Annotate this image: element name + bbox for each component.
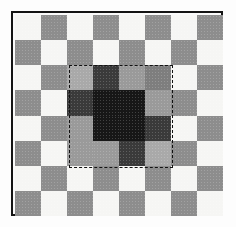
board-cell	[171, 166, 197, 191]
board-cell	[67, 90, 93, 115]
board-cell	[171, 141, 197, 166]
board-cell	[41, 116, 67, 141]
board-cell	[145, 65, 171, 90]
board-cell	[67, 40, 93, 65]
board-cell	[15, 90, 41, 115]
board-cell	[119, 40, 145, 65]
board-cell	[15, 40, 41, 65]
board-cell	[145, 116, 171, 141]
board-cell	[15, 65, 41, 90]
board-cell	[119, 15, 145, 40]
board-cell	[93, 166, 119, 191]
board-cell	[145, 141, 171, 166]
board-cell	[93, 141, 119, 166]
board-cell	[93, 116, 119, 141]
board-cell	[41, 40, 67, 65]
board-cell	[93, 191, 119, 216]
board-cell	[119, 116, 145, 141]
board-cell	[119, 166, 145, 191]
board-cell	[119, 65, 145, 90]
board-cell	[197, 141, 223, 166]
board-cell	[41, 141, 67, 166]
board-cell	[171, 40, 197, 65]
board-cell	[145, 90, 171, 115]
board-cell	[171, 15, 197, 40]
board-cell	[41, 191, 67, 216]
board-cell	[93, 65, 119, 90]
board-cell	[197, 15, 223, 40]
board-cell	[119, 90, 145, 115]
board-cell	[15, 15, 41, 40]
board-cell	[67, 116, 93, 141]
board-cell	[67, 141, 93, 166]
board-cell	[171, 65, 197, 90]
board-cell	[197, 90, 223, 115]
board-cell	[171, 90, 197, 115]
board-cell	[119, 191, 145, 216]
board-cell	[15, 191, 41, 216]
board-cell	[15, 116, 41, 141]
board-cell	[93, 40, 119, 65]
checkerboard-figure	[0, 0, 236, 227]
board-cell	[41, 90, 67, 115]
board-cell	[145, 40, 171, 65]
board-cell	[67, 191, 93, 216]
board-cell	[41, 166, 67, 191]
board-cell	[197, 40, 223, 65]
board-cell	[145, 166, 171, 191]
board-cell	[15, 141, 41, 166]
board-cell	[171, 191, 197, 216]
board-cell	[93, 90, 119, 115]
board-cell	[67, 166, 93, 191]
board-cell	[67, 65, 93, 90]
board-cell	[197, 65, 223, 90]
board-cell	[197, 191, 223, 216]
board-cell	[197, 166, 223, 191]
board-cell	[93, 15, 119, 40]
board-cell	[145, 191, 171, 216]
board-cell	[41, 15, 67, 40]
board-cell	[15, 166, 41, 191]
board-frame	[11, 11, 223, 216]
board-cell	[145, 15, 171, 40]
board-cell	[67, 15, 93, 40]
board-cell	[197, 116, 223, 141]
board-cell	[171, 116, 197, 141]
board-cell	[41, 65, 67, 90]
checkerboard-grid	[15, 15, 223, 216]
board-cell	[119, 141, 145, 166]
